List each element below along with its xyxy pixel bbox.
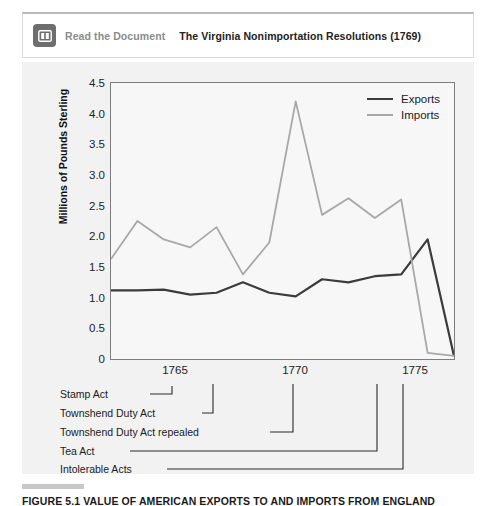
read-the-document-label: Read the Document	[65, 30, 165, 42]
x-tick-1770: 1770	[282, 364, 308, 376]
plot-area: 0 0.5 1.0 1.5 2.0 2.5 3.0 3.5 4.0 4.5 Ex…	[110, 82, 455, 360]
annotation-block: Stamp Act Townshend Duty Act Townshend D…	[22, 380, 474, 472]
figure-panel: Millions of Pounds Sterling 0 0.5 1.0 1.…	[22, 62, 474, 474]
legend-swatch-imports	[367, 114, 393, 116]
line-imports	[111, 101, 454, 356]
legend-item-imports: Imports	[367, 109, 440, 121]
y-tick-4.5: 4.5	[89, 77, 105, 89]
annotation-label-stamp-act: Stamp Act	[60, 388, 108, 400]
annotation-label-townshend-duty-act-repealed: Townshend Duty Act repealed	[60, 426, 199, 438]
y-tick-2.5: 2.5	[89, 200, 105, 212]
x-tick-1775: 1775	[402, 364, 428, 376]
x-tick-1765: 1765	[162, 364, 188, 376]
legend-item-exports: Exports	[367, 93, 440, 105]
y-tick-0.5: 0.5	[89, 322, 105, 334]
y-tick-1.0: 1.0	[89, 292, 105, 304]
figure-screenshot: Read the Document The Virginia Nonimport…	[0, 0, 504, 506]
line-exports	[111, 239, 454, 356]
legend-swatch-exports	[367, 98, 393, 100]
annotation-label-townshend-duty-act: Townshend Duty Act	[60, 407, 155, 419]
y-axis-title-line-1: Millions of	[57, 172, 69, 224]
y-tick-2.0: 2.0	[89, 230, 105, 242]
document-title[interactable]: The Virginia Nonimportation Resolutions …	[179, 30, 421, 42]
y-tick-0: 0	[99, 353, 105, 365]
legend-label-imports: Imports	[401, 109, 439, 121]
y-tick-1.5: 1.5	[89, 261, 105, 273]
legend: Exports Imports	[367, 93, 440, 125]
read-the-document-bar[interactable]: Read the Document The Virginia Nonimport…	[22, 12, 474, 58]
annotation-label-intolerable-acts: Intolerable Acts	[60, 463, 132, 475]
y-axis-title: Millions of Pounds Sterling	[57, 89, 70, 224]
caption-rule	[22, 484, 84, 489]
annotation-label-tea-act: Tea Act	[60, 445, 94, 457]
figure-caption: FIGURE 5.1 VALUE OF AMERICAN EXPORTS TO …	[22, 495, 492, 506]
y-tick-3.0: 3.0	[89, 169, 105, 181]
y-axis-title-line-2: Pounds Sterling	[57, 89, 69, 170]
y-tick-3.5: 3.5	[89, 138, 105, 150]
legend-label-exports: Exports	[401, 93, 440, 105]
open-book-icon	[33, 24, 56, 47]
y-tick-4.0: 4.0	[89, 108, 105, 120]
